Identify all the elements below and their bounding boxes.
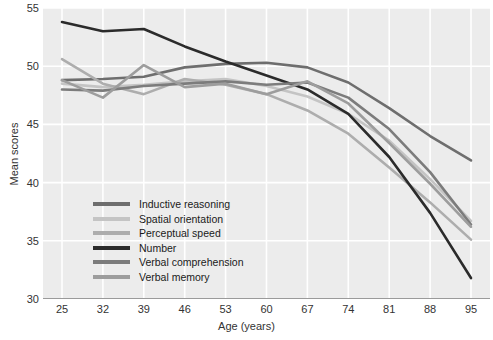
y-tick-label: 50 <box>3 60 39 72</box>
y-axis-title: Mean scores <box>8 109 20 199</box>
legend-item-label: Perceptual speed <box>139 228 221 239</box>
x-tick-label: 67 <box>287 303 327 315</box>
legend-item-label: Inductive reasoning <box>139 199 230 210</box>
legend-item-label: Number <box>139 243 176 254</box>
x-tick-label: 39 <box>124 303 164 315</box>
legend-color-swatch <box>93 202 130 206</box>
legend-item-label: Verbal memory <box>139 272 210 283</box>
x-tick-label: 32 <box>83 303 123 315</box>
legend-item[interactable]: Perceptual speed <box>93 226 243 241</box>
x-axis-title: Age (years) <box>0 320 493 332</box>
x-tick-label: 95 <box>451 303 491 315</box>
y-tick-label: 55 <box>3 2 39 14</box>
y-tick-label: 30 <box>3 293 39 305</box>
y-tick-label: 35 <box>3 235 39 247</box>
x-tick-label: 25 <box>42 303 82 315</box>
legend-color-swatch <box>93 275 130 279</box>
x-tick-label: 60 <box>247 303 287 315</box>
series-line <box>62 63 471 161</box>
legend-item[interactable]: Verbal comprehension <box>93 255 243 270</box>
x-tick-label: 46 <box>165 303 205 315</box>
legend-color-swatch <box>93 231 130 235</box>
legend-item[interactable]: Number <box>93 241 243 256</box>
legend-item[interactable]: Inductive reasoning <box>93 197 243 212</box>
line-chart: 555045403530 Mean scores Age (years) Ind… <box>0 0 493 340</box>
legend-item[interactable]: Verbal memory <box>93 270 243 285</box>
legend-item[interactable]: Spatial orientation <box>93 212 243 227</box>
x-tick-label: 88 <box>410 303 450 315</box>
legend-color-swatch <box>93 260 130 264</box>
x-tick-label: 53 <box>206 303 246 315</box>
x-tick-label: 81 <box>369 303 409 315</box>
legend-color-swatch <box>93 246 130 250</box>
x-axis-line <box>43 298 490 299</box>
legend: Inductive reasoningSpatial orientationPe… <box>93 197 243 284</box>
legend-item-label: Spatial orientation <box>139 214 223 225</box>
legend-color-swatch <box>93 217 130 221</box>
x-tick-label: 74 <box>328 303 368 315</box>
legend-item-label: Verbal comprehension <box>139 257 243 268</box>
